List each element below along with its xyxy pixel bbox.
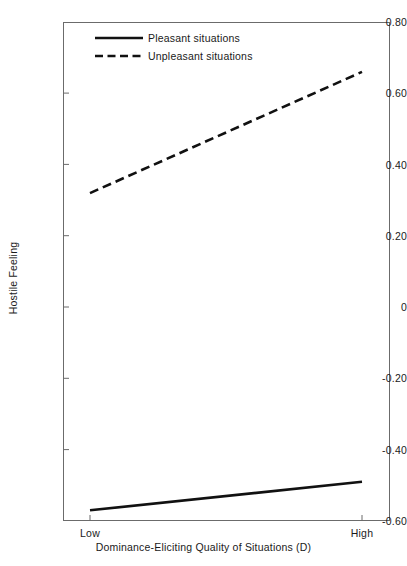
y-axis-title: Hostile Feeling xyxy=(7,218,19,338)
y-tick-label-4: 0 xyxy=(355,301,407,313)
legend-swatch-dashed-line-icon xyxy=(95,50,143,62)
legend: Pleasant situations Unpleasant situation… xyxy=(95,29,305,65)
y-tick-label-7: -0.60 xyxy=(355,515,407,527)
legend-label-pleasant-situations: Pleasant situations xyxy=(143,32,240,44)
y-tick-label-1: 0.60 xyxy=(355,87,407,99)
y-tick-label-3: 0.20 xyxy=(355,230,407,242)
chart-figure: 0.80 0.60 0.40 0.20 0 -0.20 -0.40 -0.60 … xyxy=(0,0,407,566)
y-tick-label-2: 0.40 xyxy=(355,159,407,171)
legend-label-unpleasant-situations: Unpleasant situations xyxy=(143,50,253,62)
y-tick-label-5: -0.20 xyxy=(355,372,407,384)
plot-area xyxy=(63,22,390,521)
legend-item-pleasant-situations: Pleasant situations xyxy=(95,29,305,47)
x-tick-label-high: High xyxy=(351,527,373,539)
legend-swatch-solid-line-icon xyxy=(95,32,143,44)
legend-item-unpleasant-situations: Unpleasant situations xyxy=(95,47,305,65)
x-tick-label-low: Low xyxy=(80,527,100,539)
y-tick-label-6: -0.40 xyxy=(355,444,407,456)
x-axis-title: Dominance-Eliciting Quality of Situation… xyxy=(0,541,407,553)
y-tick-label-0: 0.80 xyxy=(355,16,407,28)
